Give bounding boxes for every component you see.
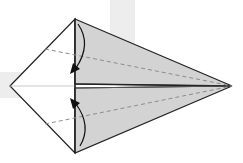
- origami-fold-diagram: [0, 0, 243, 163]
- paper-colored-upper-flap: [75, 19, 232, 86]
- paper-colored-lower-flap: [75, 86, 232, 153]
